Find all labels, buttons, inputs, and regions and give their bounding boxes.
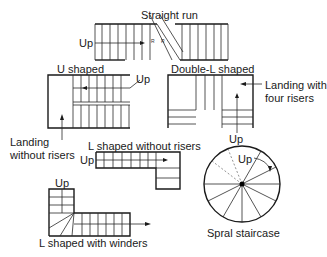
staircase-diagram: R R (0, 0, 327, 257)
u-shaped-drawing (48, 75, 140, 140)
straight-run-title: Straight run (141, 9, 198, 21)
l-shaped-without-risers-up-label: Up (80, 154, 94, 166)
double-l-shaped-drawing (168, 75, 262, 133)
u-shaped-up-label: Up (136, 73, 150, 85)
double-l-callout-line2: four risers (265, 92, 314, 104)
l-shaped-with-winders-title: L shaped with winders (39, 237, 147, 249)
double-l-shaped-title: Double-L shaped (171, 63, 254, 75)
l-shaped-without-risers-title: L shaped without risers (88, 140, 201, 152)
double-l-up-label: Up (229, 133, 243, 145)
spiral-up-label: Up (238, 153, 252, 165)
svg-text:R: R (161, 38, 165, 44)
svg-text:R: R (151, 38, 155, 44)
straight-run-up-label: Up (79, 37, 93, 49)
l-shaped-with-winders-up-label: Up (55, 177, 69, 189)
double-l-callout-line1: Landing with (265, 79, 327, 91)
u-shaped-title: U shaped (57, 63, 104, 75)
u-shaped-callout-line2: without risers (10, 149, 75, 161)
l-shaped-without-risers-drawing (96, 152, 180, 189)
straight-run-drawing: R R (95, 15, 228, 60)
l-shaped-with-winders-drawing (49, 189, 151, 236)
u-shaped-callout-line1: Landing (10, 136, 49, 148)
spiral-staircase-title: Spral staircase (207, 227, 280, 239)
